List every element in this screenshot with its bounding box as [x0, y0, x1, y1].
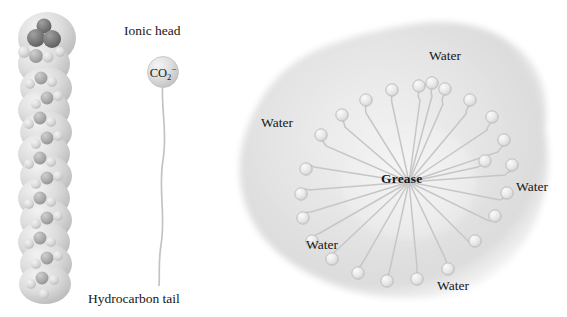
- water-label-right: Water: [516, 180, 548, 194]
- water-label-bottom-right: Water: [437, 279, 469, 293]
- schematic-soap-molecule: CO2−: [148, 57, 179, 287]
- figure-canvas: CO2−: [0, 0, 567, 317]
- grease-label: Grease: [381, 172, 422, 186]
- micelle-group: [240, 22, 549, 298]
- water-label-bottom-left: Water: [306, 238, 338, 252]
- ionic-head-label: Ionic head: [124, 24, 181, 38]
- hydrocarbon-tail-label: Hydrocarbon tail: [88, 292, 180, 306]
- space-filling-model: CO2−: [0, 0, 567, 317]
- water-label-top: Water: [429, 49, 461, 63]
- hydrocarbon-tail-line: [159, 80, 165, 286]
- water-label-left: Water: [261, 116, 293, 130]
